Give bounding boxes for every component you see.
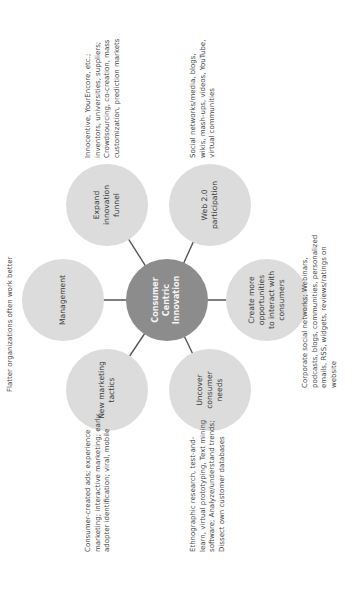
note-create: Corporate social networks; Webinars, pod… [301,235,340,388]
node-label: Uncover consumer needs [195,371,225,409]
node-uncover-consumer-needs: Uncover consumer needs [169,349,251,431]
node-create-more-opportunities: Create more opportunities to interact wi… [226,259,308,341]
node-label: Web 2.0 participation [200,181,220,229]
note-web20: Social networks/media, blogs, wikis, mas… [189,40,218,158]
node-consumer-centric-innovation: Consumer Centric Innovation [126,259,208,341]
node-label: Expand innovation funnel [92,170,122,240]
node-label: New marketing tactics [97,361,117,419]
node-label: Management [58,275,68,325]
node-management: Management [22,259,104,341]
note-management: Flatter organizations often work better [6,257,16,392]
diagram-canvas: Management Expand innovation funnel Web … [0,0,362,604]
node-expand-innovation-funnel: Expand innovation funnel [66,164,148,246]
center-label: Consumer Centric Innovation [151,276,182,324]
note-expand: Innocentive, YourEncore, etc.; inventors… [84,39,123,158]
node-label: Create more opportunities to interact wi… [247,271,286,329]
node-web-2-0-participation: Web 2.0 participation [169,164,251,246]
note-uncover: Ethnographic research, test-and- learn, … [189,420,228,552]
note-marketing: Consumer-created ads; experience marketi… [84,414,113,552]
